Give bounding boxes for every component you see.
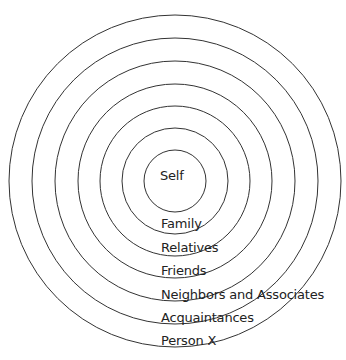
label-relatives: Relatives (161, 240, 218, 256)
label-person-x: Person X (161, 333, 216, 349)
social-circles-diagram: Self Family Relatives Friends Neighbors … (0, 0, 346, 360)
label-friends: Friends (161, 263, 206, 279)
label-neighbors-and-associates: Neighbors and Associates (161, 287, 324, 303)
label-self: Self (160, 168, 184, 184)
label-acquaintances: Acquaintances (161, 310, 254, 326)
label-family: Family (161, 216, 202, 232)
